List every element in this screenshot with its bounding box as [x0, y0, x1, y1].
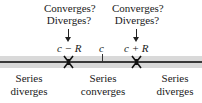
center-tick — [102, 54, 103, 62]
region-left-line2: diverges — [4, 85, 54, 98]
region-center-line1: Series — [76, 72, 130, 85]
right-endpoint-question: Converges? Diverges? — [112, 2, 162, 26]
right-question-converges: Converges? — [112, 2, 162, 14]
right-endpoint-marker-icon — [131, 55, 142, 69]
region-right-diverges: Series diverges — [150, 72, 200, 98]
label-c: c — [99, 42, 104, 54]
right-question-diverges: Diverges? — [112, 14, 162, 26]
left-endpoint-question: Converges? Diverges? — [44, 2, 94, 26]
label-c-minus-r: c − R — [57, 42, 82, 54]
region-right-line2: diverges — [150, 85, 200, 98]
label-c-plus-r: c + R — [124, 42, 149, 54]
number-line-axis — [0, 61, 202, 63]
left-endpoint-marker-icon — [63, 55, 74, 69]
region-left-line1: Series — [4, 72, 54, 85]
region-right-line1: Series — [150, 72, 200, 85]
region-left-diverges: Series diverges — [4, 72, 54, 98]
region-center-line2: converges — [76, 85, 130, 98]
left-question-diverges: Diverges? — [44, 14, 94, 26]
region-center-converges: Series converges — [76, 72, 130, 98]
left-question-converges: Converges? — [44, 2, 94, 14]
